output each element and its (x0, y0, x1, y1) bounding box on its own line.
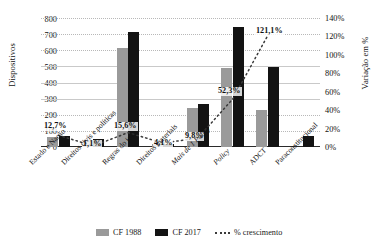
legend-swatch-icon (96, 229, 109, 236)
x-label-policy: Policy (212, 147, 231, 166)
chart-legend: CF 1988 CF 2017 % crescimento (96, 228, 282, 237)
y-tick-right-100: 100% (325, 52, 365, 60)
y-tick-right-120: 120% (325, 33, 365, 41)
y-tick-right-20: 20% (325, 126, 365, 134)
plot-area: 12,7% 1,1% 15,6% 4,1% 9,8% 52,3% 121,1% (41, 18, 320, 147)
y-tick-right-40: 40% (325, 107, 365, 115)
y-axis-left-title: Dispositivos (7, 30, 17, 100)
growth-bar-chart: Dispositivos Variação em % 0 100 200 300… (0, 0, 381, 249)
data-label-policy: 52,3% (217, 87, 242, 96)
legend-label: CF 1988 (113, 228, 141, 237)
legend-item-cf-1988[interactable]: CF 1988 (96, 228, 141, 237)
legend-item-cf-2017[interactable]: CF 2017 (155, 228, 200, 237)
y-tick-right-0: 0% (325, 144, 365, 152)
y-tick-right-60: 60% (325, 89, 365, 97)
legend-label: CF 2017 (172, 228, 200, 237)
y-tick-right-80: 80% (325, 70, 365, 78)
growth-line (41, 18, 320, 147)
y-tick-right-140: 140% (325, 15, 365, 23)
legend-item-percent-crescimento[interactable]: % crescimento (215, 228, 282, 237)
legend-dotted-line-icon (215, 232, 230, 234)
legend-label: % crescimento (234, 228, 282, 237)
legend-swatch-icon (155, 229, 168, 236)
x-label-adct: ADCT (248, 146, 268, 166)
data-label-adct: 121,1% (255, 27, 284, 36)
